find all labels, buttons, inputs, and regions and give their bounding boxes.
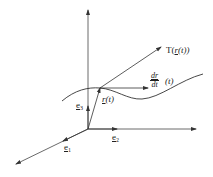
label-derivative-arg: (t) [165,77,174,86]
diagram-svg [0,0,213,177]
label-derivative-fraction: dr dt [150,72,159,89]
unit-vector-e1 [63,129,88,141]
diagram-canvas: e3 e2 e1 r(t) T(r(t)) dr dt (t) [0,0,213,177]
position-vector [88,88,100,129]
label-tangent-line: T(r(t)) [166,46,190,55]
label-e2: e2 [112,133,119,143]
label-e1: e1 [64,143,71,153]
label-e3: e3 [76,101,83,111]
derivative-denominator: dt [150,81,159,89]
label-position-vector: r(t) [102,95,114,104]
space-curve [62,74,203,101]
